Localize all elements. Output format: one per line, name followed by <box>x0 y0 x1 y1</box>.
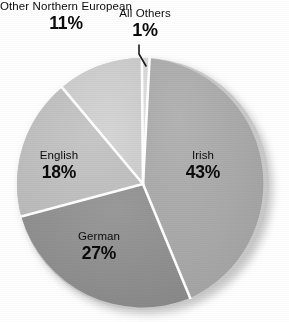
slice-label-english-name: English <box>13 150 105 162</box>
pie-chart: All Others 1% Other Northern European 11… <box>0 0 289 322</box>
slice-label-german: German 27% <box>53 231 145 262</box>
slice-label-german-name: German <box>53 231 145 243</box>
slice-label-english-value: 18% <box>13 163 105 181</box>
slice-label-other-northern-european-value: 11% <box>0 14 132 32</box>
slice-label-irish: Irish 43% <box>157 150 249 181</box>
pie-slices <box>17 58 263 307</box>
slice-label-english: English 18% <box>13 150 105 181</box>
slice-label-german-value: 27% <box>53 244 145 262</box>
slice-label-irish-name: Irish <box>157 150 249 162</box>
slice-label-other-northern-european-name: Other Northern European <box>0 0 132 13</box>
slice-label-other-northern-european: Other Northern European 11% <box>0 0 132 32</box>
slice-label-irish-value: 43% <box>157 163 249 181</box>
